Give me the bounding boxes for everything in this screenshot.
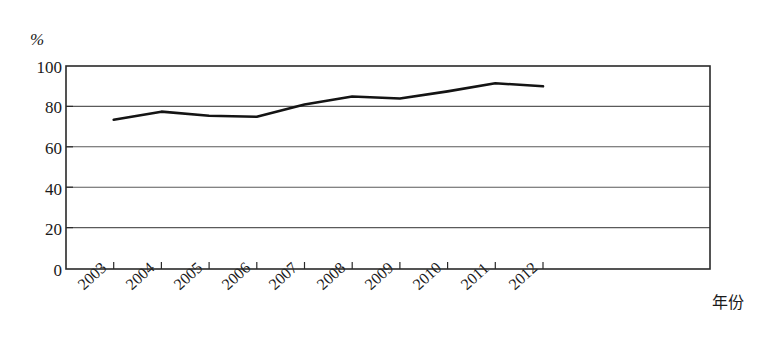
y-axis-ticks (66, 106, 73, 227)
gridlines-horizontal (66, 106, 710, 227)
plot-area (0, 0, 771, 341)
line-chart: % 100 80 60 40 20 0 2003 2004 2005 2006 … (0, 0, 771, 341)
x-axis-ticks (114, 262, 543, 269)
plot-frame (66, 66, 710, 269)
data-series-line (114, 83, 543, 120)
